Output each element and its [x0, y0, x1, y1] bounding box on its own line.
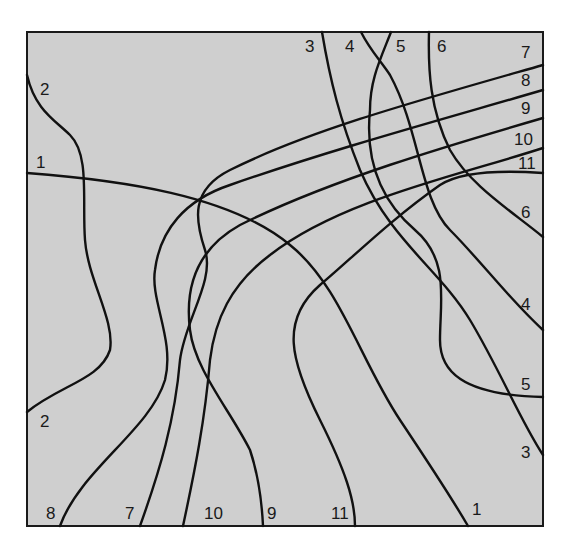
curve-label-2: 2 — [40, 412, 49, 431]
curve-label-9: 9 — [267, 504, 276, 523]
curve-label-11: 11 — [518, 154, 536, 173]
curve-label-5: 5 — [521, 375, 530, 394]
curve-label-10: 10 — [514, 130, 533, 149]
curve-label-3: 3 — [305, 37, 314, 56]
curve-label-11: 11 — [331, 504, 349, 523]
curve-label-3: 3 — [521, 443, 530, 462]
curve-label-9: 9 — [521, 99, 530, 118]
curve-label-7: 7 — [521, 43, 530, 62]
curve-label-8: 8 — [521, 71, 530, 90]
curve-label-4: 4 — [521, 295, 530, 314]
curve-label-10: 10 — [204, 504, 223, 523]
curve-label-7: 7 — [125, 504, 134, 523]
curve-label-1: 1 — [472, 500, 481, 519]
crossing-curves-diagram: 21345678910116453287109111 — [0, 0, 573, 554]
square-frame — [27, 32, 543, 526]
curve-label-6: 6 — [437, 37, 446, 56]
curve-label-1: 1 — [36, 153, 45, 172]
curve-label-4: 4 — [345, 37, 354, 56]
curve-label-8: 8 — [46, 504, 55, 523]
curve-label-5: 5 — [396, 37, 405, 56]
curve-label-2: 2 — [40, 80, 49, 99]
curve-label-6: 6 — [521, 203, 530, 222]
